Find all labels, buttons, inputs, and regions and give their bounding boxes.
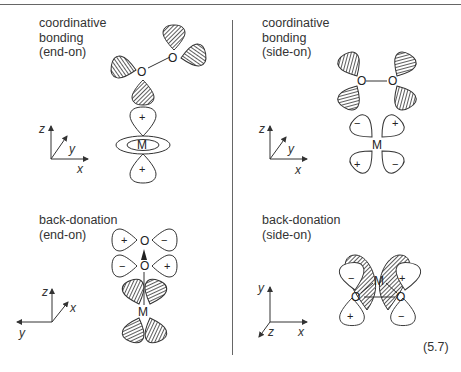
svg-text:y: y [287, 142, 295, 156]
svg-text:M: M [372, 138, 382, 152]
svg-text:−: − [354, 117, 360, 129]
svg-text:+: + [347, 310, 353, 322]
orbital-diagram: z y x O O + M + z y x O O [0, 0, 461, 372]
svg-text:+: + [164, 260, 170, 272]
svg-text:−: − [392, 158, 398, 170]
svg-text:+: + [139, 163, 145, 175]
svg-text:−: − [161, 234, 167, 246]
svg-text:−: − [119, 260, 125, 272]
svg-text:O: O [140, 259, 149, 273]
svg-text:O: O [396, 290, 405, 304]
svg-text:O: O [351, 290, 360, 304]
svg-text:y: y [18, 326, 26, 340]
svg-text:O: O [168, 51, 177, 65]
svg-text:O: O [357, 74, 366, 88]
panel-coordinative-end-on: z y x O O + M + [38, 25, 208, 183]
svg-text:+: + [399, 272, 405, 284]
svg-text:O: O [137, 65, 146, 79]
svg-text:+: + [354, 158, 360, 170]
svg-text:z: z [38, 122, 45, 136]
svg-text:+: + [121, 234, 127, 246]
svg-text:O: O [140, 234, 149, 248]
svg-text:z: z [41, 285, 48, 299]
svg-text:x: x [76, 162, 84, 176]
svg-text:+: + [392, 117, 398, 129]
svg-text:M: M [137, 138, 147, 152]
svg-text:x: x [297, 325, 305, 339]
svg-text:x: x [69, 301, 77, 315]
panel-back-donation-side-on: y z x − + + − M O O [257, 255, 422, 339]
svg-text:z: z [258, 122, 265, 136]
panel-back-donation-end-on: z x y O O M + − − + [17, 229, 177, 345]
svg-text:−: − [348, 272, 354, 284]
svg-text:M: M [138, 305, 148, 319]
svg-text:y: y [68, 142, 76, 156]
svg-text:−: − [398, 310, 404, 322]
svg-text:x: x [294, 163, 302, 177]
svg-text:y: y [257, 281, 265, 295]
svg-text:z: z [267, 325, 274, 339]
panel-coordinative-side-on: z y x O O − + M + − [258, 49, 419, 177]
svg-text:+: + [139, 111, 145, 123]
svg-text:O: O [388, 74, 397, 88]
svg-text:M: M [374, 274, 384, 288]
